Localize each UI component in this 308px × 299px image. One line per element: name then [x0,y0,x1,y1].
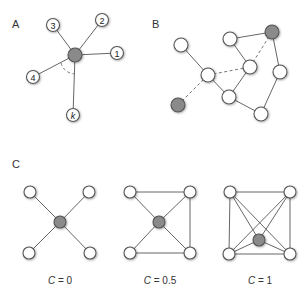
caption-c1: C = 1 [248,275,273,286]
node [124,247,136,259]
neighbor-node-k: k [67,109,80,122]
center-node [54,216,66,228]
caption-c05: C = 0.5 [144,275,177,286]
panel-label-c: C [12,158,20,170]
node-label: 1 [114,49,119,59]
edge [159,222,190,253]
node [201,68,215,82]
network-figure: A 1 2 3 4 k B [0,0,308,299]
node [284,248,296,260]
node-label: 3 [50,21,55,31]
caption-val: 0.5 [162,275,176,286]
edge [29,222,60,253]
neighbor-node-1: 1 [111,47,124,60]
caption-c0: C = 0 [48,275,73,286]
graph-c1: C = 1 [223,186,296,286]
node [273,65,287,79]
node-label: 2 [99,16,104,26]
node-gray [171,98,185,112]
center-node [153,216,165,228]
node [223,248,235,260]
panel-label-b: B [152,18,159,30]
edge [229,192,230,254]
node [124,186,136,198]
node [224,186,236,198]
neighbor-node-4: 4 [27,71,40,84]
node [222,90,236,104]
neighbor-node-3: 3 [47,19,60,32]
node [23,247,35,259]
node-label: k [71,111,76,121]
center-node [253,234,265,246]
graph-c0: C = 0 [23,186,96,286]
panel-label-a: A [12,18,20,30]
caption-eq: = [151,275,162,286]
node [84,247,96,259]
node-gray [265,25,279,39]
node [184,186,196,198]
center-node [68,48,82,62]
edge [230,192,259,240]
caption-val: 0 [67,275,73,286]
node [184,247,196,259]
node [223,32,237,46]
neighbor-node-2: 2 [96,14,109,27]
caption-val: 1 [267,275,273,286]
caption-eq: = [55,275,66,286]
edge-center-k [73,55,75,115]
node [83,186,95,198]
node [24,186,36,198]
node [254,107,268,121]
node-label: 4 [30,73,35,83]
graph-c05: C = 0.5 [124,186,196,286]
node [243,60,257,74]
panel-c: C C = 0 C = 0. [12,158,296,286]
node [174,38,188,52]
panel-a: A 1 2 3 4 k [12,14,124,122]
edge [259,192,290,240]
node [284,186,296,198]
ellipsis-arc [61,63,75,74]
caption-eq: = [255,275,266,286]
panel-b: B [152,18,287,121]
